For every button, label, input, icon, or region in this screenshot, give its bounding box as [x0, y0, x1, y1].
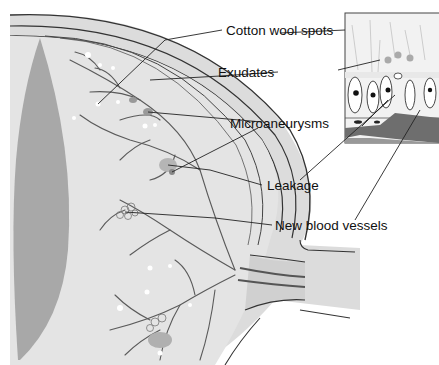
retina-inset — [345, 13, 439, 143]
eye-diagram — [0, 0, 439, 365]
label-cotton-wool-spots: Cotton wool spots — [226, 24, 333, 38]
label-exudates: Exudates — [218, 66, 274, 80]
label-new-blood-vessels: New blood vessels — [275, 219, 388, 233]
label-leakage: Leakage — [267, 179, 319, 193]
label-microaneurysms: Microaneurysms — [230, 117, 329, 131]
